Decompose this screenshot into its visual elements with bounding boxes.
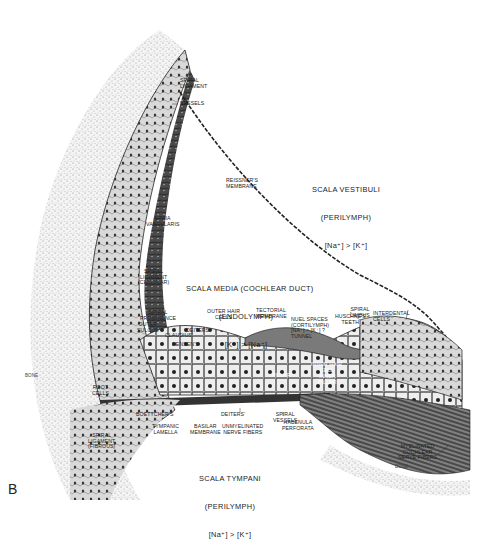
scala-media-fluid: (ENDOLYMPH) (186, 312, 306, 321)
label-spiral-ligament-fibrous: SPIRAL LIGAMENT (FIBROUS) (88, 433, 115, 450)
label-stria-vascularis: STRIA VASCULARIS (146, 216, 179, 227)
label-huschkes-teeth: HUSCHKE'S TEETH (335, 314, 366, 325)
label-tectorial-membrane: TECTORIAL MEMBRANE (256, 308, 287, 319)
label-outer-sulcus: OUTER SULCUS (137, 322, 159, 333)
label-spiral-prominence: SPIRAL PROMINENCE (140, 310, 176, 321)
scala-media-label: SCALA MEDIA (COCHLEAR DUCT) (ENDOLYMPH) … (186, 265, 306, 359)
label-basilar-membrane: BASILAR MEMBRANE (190, 424, 221, 435)
label-pillar: PILLAR (272, 373, 290, 379)
label-inner-pillar: INNER PILLAR (318, 374, 336, 385)
label-deiters-lower: DEITERS' (221, 412, 245, 418)
scala-tympani-ion: [Na⁺] > [K⁺] (190, 530, 270, 539)
label-vessels: VESSELS (180, 101, 204, 107)
label-outer-hair-cells: OUTER HAIR CELLS (207, 309, 240, 320)
label-root-cells: ROOT CELLS (92, 385, 109, 396)
scala-media-name: SCALA MEDIA (COCHLEAR DUCT) (186, 284, 306, 293)
label-interdental-cells: INTERDENTAL CELLS (373, 311, 410, 322)
label-bone-left: BONE (25, 373, 38, 378)
label-claudius: CLAUDIUS' (165, 333, 193, 339)
label-deiters-upper: DEITERS' (186, 328, 210, 334)
label-spiral-ligament-cellular: SPIRAL LIGAMENT (CELLULAR) (138, 269, 169, 286)
scala-tympani-name: SCALA TYMPANI (190, 474, 270, 483)
scala-vestibuli-label: SCALA VESTIBULI (PERILYMPH) [Na⁺] > [K⁺] (296, 166, 396, 260)
label-tympanic-lamella: TYMPANIC LAMELLA (152, 424, 179, 435)
label-boettchers: BOETTCHER'S (136, 412, 174, 418)
label-unmyelinated-nerve-fibers: UNMYELINATED NERVE FIBERS (222, 424, 263, 435)
panel-label: B (8, 481, 17, 497)
scala-tympani-fluid: (PERILYMPH) (190, 502, 270, 511)
scala-vestibuli-fluid: (PERILYMPH) (296, 213, 396, 222)
scala-vestibuli-ion: [Na⁺] > [K⁺] (296, 241, 396, 250)
label-spiral-ligament: SPIRAL LIGAMENT (180, 78, 207, 89)
label-nuel-spaces: NUEL SPACES (CORTILYMPH) [Na⁺] > [K⁺] ? … (291, 317, 329, 339)
label-hensens: HENSEN'S (172, 342, 199, 348)
label-habenula-perforata: HABENULA PERFORATA (282, 420, 314, 431)
scala-vestibuli-name: SCALA VESTIBULI (296, 185, 396, 194)
label-myelinated-cochlear-nerve-fibers: MYELINATED COCHLEAR NERVE FIBERS (398, 444, 437, 461)
scala-tympani-label: SCALA TYMPANI (PERILYMPH) [Na⁺] > [K⁺] (190, 455, 270, 543)
label-bone-right: BONE (395, 464, 408, 469)
scala-media-ion: [K⁺] > [Na⁺] (186, 340, 306, 349)
label-inner-hair-cell: INNER HAIR CELL (311, 362, 342, 373)
label-reissners-membrane: REISSNER'S MEMBRANE (226, 178, 258, 189)
